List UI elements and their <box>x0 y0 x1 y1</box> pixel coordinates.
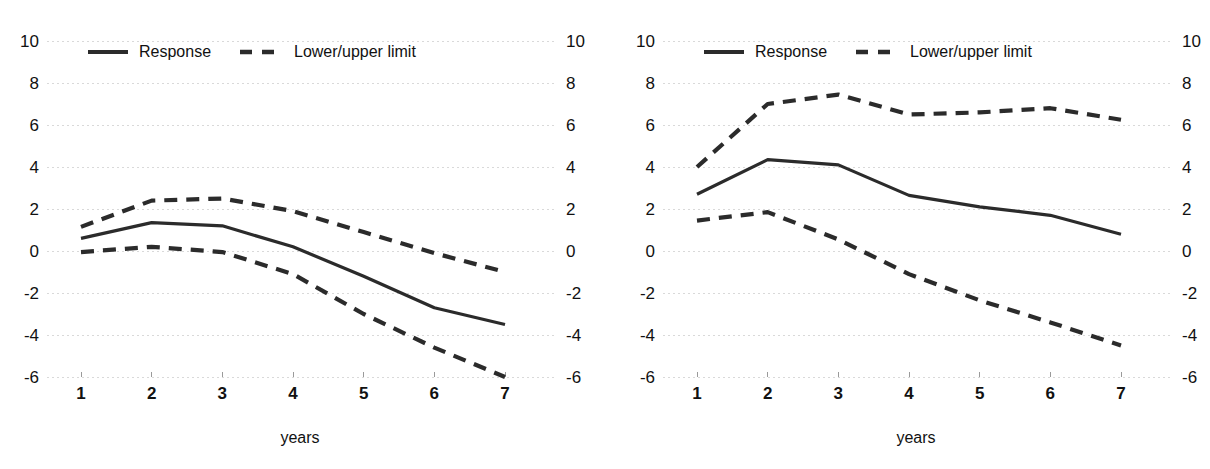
series-line-upper-limit <box>697 95 1121 167</box>
y-axis-tick-label-right-4: 4 <box>566 158 575 177</box>
y-axis-tick-label-left-4: 4 <box>30 158 39 177</box>
y-axis-tick-label-right-6: 6 <box>1182 116 1191 135</box>
y-axis-tick-label-left-8: 8 <box>646 74 655 93</box>
y-axis-tick-label-right-4: 4 <box>1182 158 1191 177</box>
y-axis-tick-label-right--2: -2 <box>1182 284 1197 303</box>
y-axis-tick-label-right--4: -4 <box>566 326 581 345</box>
y-axis-tick-label-left-10: 10 <box>636 32 655 51</box>
legend-label-response: Response <box>139 43 211 60</box>
x-axis-tick-label-3: 3 <box>834 384 843 403</box>
x-axis-tick-label-5: 5 <box>975 384 984 403</box>
x-axis-tick-label-2: 2 <box>147 384 156 403</box>
x-axis-tick-label-5: 5 <box>359 384 368 403</box>
y-axis-tick-label-left--4: -4 <box>640 326 655 345</box>
chart-canvas-right: 10108866442200-2-2-4-4-6-61234567yearsRe… <box>605 0 1210 469</box>
x-axis-title: years <box>280 429 319 446</box>
series-line-response <box>81 223 505 325</box>
y-axis-tick-label-left-2: 2 <box>30 200 39 219</box>
dual-line-chart-figure: 10108866442200-2-2-4-4-6-61234567yearsRe… <box>0 0 1210 469</box>
y-axis-tick-label-left-4: 4 <box>646 158 655 177</box>
x-axis-tick-label-3: 3 <box>218 384 227 403</box>
y-axis-tick-label-left--6: -6 <box>24 368 39 387</box>
y-axis-tick-label-left-2: 2 <box>646 200 655 219</box>
series-line-lower-limit <box>697 212 1121 345</box>
x-axis-tick-label-4: 4 <box>288 384 298 403</box>
legend-label-limit: Lower/upper limit <box>910 43 1032 60</box>
y-axis-tick-label-right-8: 8 <box>1182 74 1191 93</box>
chart-canvas-left: 10108866442200-2-2-4-4-6-61234567yearsRe… <box>0 0 605 469</box>
y-axis-tick-label-right-10: 10 <box>1182 32 1201 51</box>
chart-panel-left: 10108866442200-2-2-4-4-6-61234567yearsRe… <box>0 0 605 469</box>
y-axis-tick-label-left--2: -2 <box>24 284 39 303</box>
x-axis-title: years <box>896 429 935 446</box>
y-axis-tick-label-left--6: -6 <box>640 368 655 387</box>
y-axis-tick-label-right-0: 0 <box>566 242 575 261</box>
y-axis-tick-label-right-6: 6 <box>566 116 575 135</box>
x-axis-tick-label-2: 2 <box>763 384 772 403</box>
x-axis-tick-label-1: 1 <box>692 384 701 403</box>
legend-label-response: Response <box>755 43 827 60</box>
y-axis-tick-label-right-2: 2 <box>566 200 575 219</box>
y-axis-tick-label-right-10: 10 <box>566 32 585 51</box>
y-axis-tick-label-right--6: -6 <box>1182 368 1197 387</box>
x-axis-tick-label-6: 6 <box>430 384 439 403</box>
y-axis-tick-label-left--4: -4 <box>24 326 39 345</box>
x-axis-tick-label-6: 6 <box>1046 384 1055 403</box>
y-axis-tick-label-left--2: -2 <box>640 284 655 303</box>
x-axis-tick-label-4: 4 <box>904 384 914 403</box>
x-axis-tick-label-1: 1 <box>76 384 85 403</box>
y-axis-tick-label-left-6: 6 <box>30 116 39 135</box>
y-axis-tick-label-left-10: 10 <box>20 32 39 51</box>
legend-label-limit: Lower/upper limit <box>294 43 416 60</box>
x-axis-tick-label-7: 7 <box>500 384 509 403</box>
y-axis-tick-label-left-6: 6 <box>646 116 655 135</box>
y-axis-tick-label-right--4: -4 <box>1182 326 1197 345</box>
y-axis-tick-label-right-0: 0 <box>1182 242 1191 261</box>
series-line-upper-limit <box>81 199 505 273</box>
x-axis-tick-label-7: 7 <box>1116 384 1125 403</box>
y-axis-tick-label-left-0: 0 <box>30 242 39 261</box>
y-axis-tick-label-left-8: 8 <box>30 74 39 93</box>
y-axis-tick-label-left-0: 0 <box>646 242 655 261</box>
y-axis-tick-label-right--6: -6 <box>566 368 581 387</box>
y-axis-tick-label-right-8: 8 <box>566 74 575 93</box>
y-axis-tick-label-right--2: -2 <box>566 284 581 303</box>
series-line-response <box>697 160 1121 235</box>
series-line-lower-limit <box>81 247 505 377</box>
y-axis-tick-label-right-2: 2 <box>1182 200 1191 219</box>
chart-panel-right: 10108866442200-2-2-4-4-6-61234567yearsRe… <box>605 0 1210 469</box>
